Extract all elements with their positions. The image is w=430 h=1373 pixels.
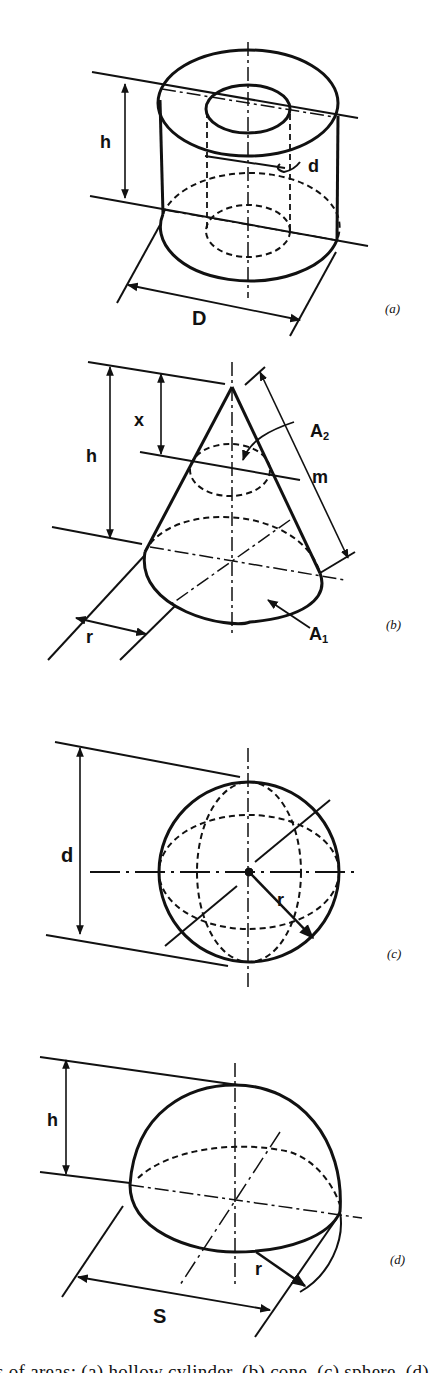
- label-b-A2: A2: [310, 421, 329, 442]
- label-b-m: m: [312, 467, 328, 487]
- label-b-h: h: [86, 446, 97, 466]
- tag-a: (a): [385, 301, 400, 316]
- label-d-r: r: [255, 1259, 262, 1279]
- label-c-r: r: [277, 890, 284, 910]
- label-a-D: D: [192, 307, 206, 329]
- caption-text: s of areas: (a) hollow cylinder, (b) con…: [0, 1361, 430, 1373]
- geometry-figures: h d D (a) x h A2 m A1: [0, 0, 430, 1373]
- tag-d: (d): [390, 1252, 405, 1267]
- label-b-A1: A1: [309, 624, 328, 645]
- label-d-h: h: [47, 1110, 58, 1130]
- label-b-r: r: [86, 627, 93, 647]
- label-a-h: h: [100, 132, 111, 152]
- figure-b-cone: [48, 362, 355, 660]
- label-b-x: x: [134, 410, 144, 430]
- tag-c: (c): [387, 946, 401, 961]
- label-a-d: d: [308, 156, 319, 176]
- figure-a-hollow-cylinder: [90, 42, 368, 336]
- tag-b: (b): [386, 617, 401, 632]
- label-c-d: d: [61, 844, 73, 866]
- figure-caption: s of areas: (a) hollow cylinder, (b) con…: [0, 1361, 430, 1373]
- label-d-S: S: [153, 1305, 166, 1327]
- figure-c-sphere: [46, 742, 360, 990]
- figure-d-spherical-segment: [40, 1057, 362, 1337]
